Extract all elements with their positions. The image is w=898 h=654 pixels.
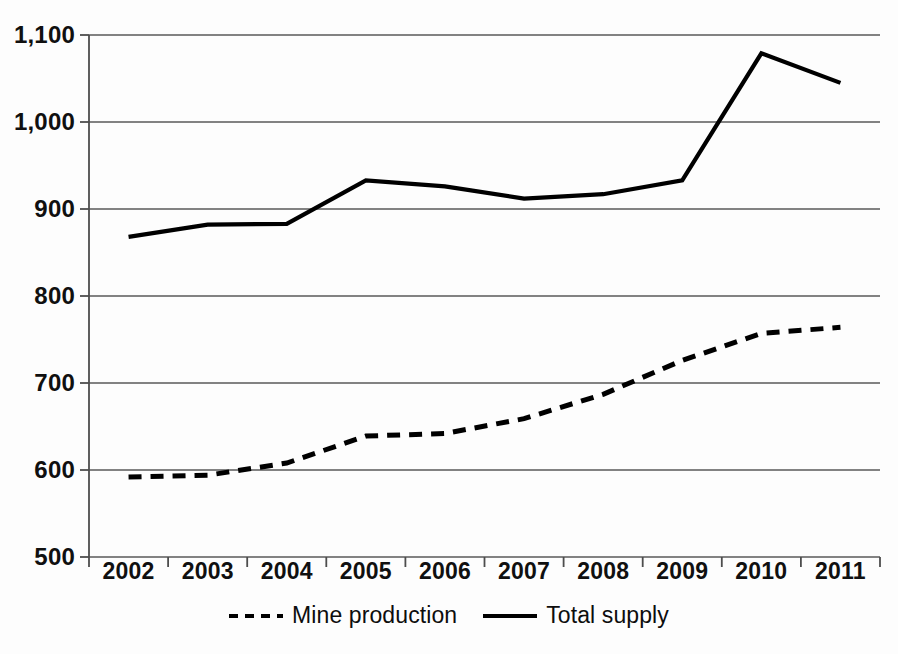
chart-legend: Mine productionTotal supply [0, 604, 898, 627]
chart-plot-area [0, 0, 898, 654]
x-axis-label-2003: 2003 [168, 560, 247, 583]
y-axis-label-600: 600 [1, 458, 75, 482]
legend-entry-mine-production[interactable]: Mine production [229, 604, 457, 627]
y-axis-label-1000: 1,000 [1, 110, 75, 134]
y-axis-label-1100: 1,100 [1, 23, 75, 47]
x-axis-label-2009: 2009 [643, 560, 722, 583]
y-tick-marks [80, 35, 89, 557]
y-axis-label-500: 500 [1, 545, 75, 569]
y-axis-label-800: 800 [1, 284, 75, 308]
x-axis-label-2010: 2010 [722, 560, 801, 583]
line-chart: 1,1001,000900800700600500 20022003200420… [0, 0, 898, 654]
y-axis-label-700: 700 [1, 371, 75, 395]
series-lines [129, 53, 841, 477]
x-axis-label-2004: 2004 [247, 560, 326, 583]
legend-swatch-dashed-line-icon [229, 614, 283, 618]
x-axis-label-2005: 2005 [326, 560, 405, 583]
legend-label: Total supply [546, 604, 669, 627]
legend-swatch-solid-line-icon [483, 614, 537, 618]
x-axis-label-2008: 2008 [564, 560, 643, 583]
x-axis-label-2006: 2006 [405, 560, 484, 583]
legend-label: Mine production [292, 604, 457, 627]
gridlines [89, 35, 880, 557]
x-axis-label-2002: 2002 [89, 560, 168, 583]
y-axis-label-900: 900 [1, 197, 75, 221]
legend-entry-total-supply[interactable]: Total supply [483, 604, 669, 627]
series-line-mine-production [129, 327, 841, 477]
x-axis-label-2011: 2011 [801, 560, 880, 583]
x-axis-label-2007: 2007 [485, 560, 564, 583]
